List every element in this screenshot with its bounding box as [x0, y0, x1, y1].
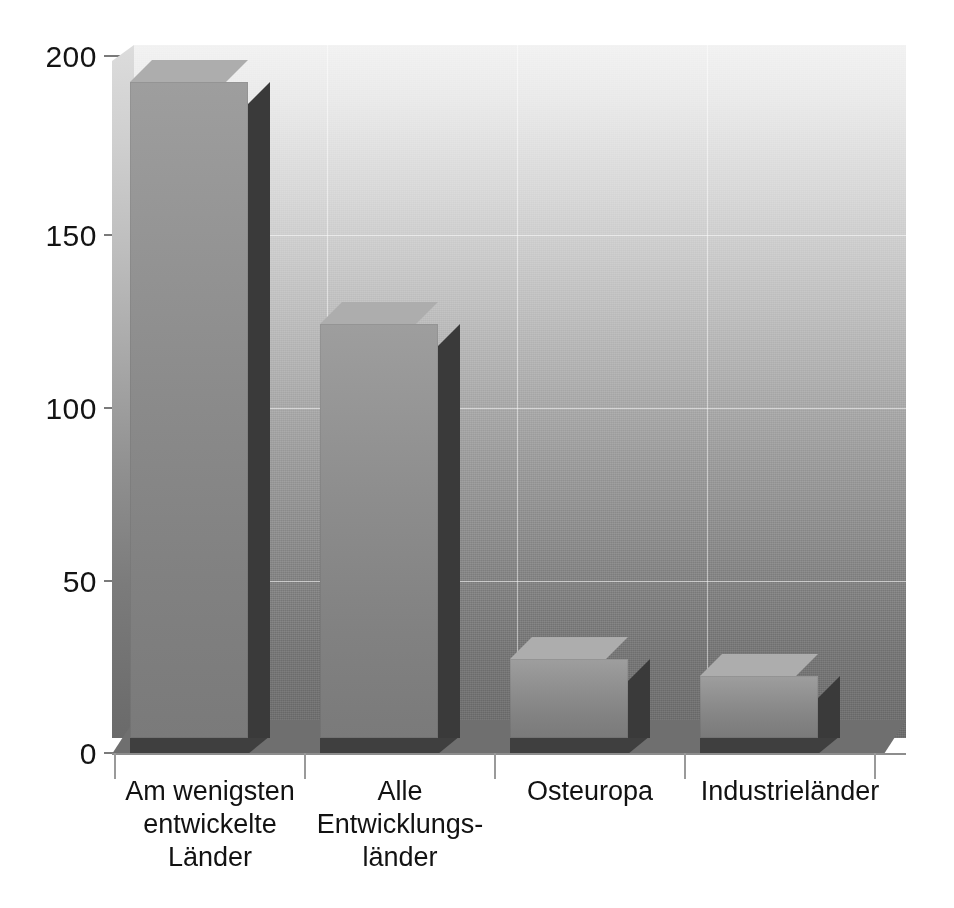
bar-side-1	[248, 82, 270, 738]
bar-top-4	[700, 654, 818, 676]
x-label-osteuropa: Osteuropa	[490, 775, 690, 808]
bar-industrielaender[interactable]	[700, 676, 818, 738]
bar-shadow-4	[700, 736, 840, 754]
y-tick-label-100: 100	[45, 394, 97, 424]
bar-front-4	[700, 676, 818, 738]
bar-front-1	[130, 82, 248, 738]
bars-layer	[112, 45, 906, 754]
y-tick-label-150: 150	[45, 221, 97, 251]
bar-am-wenigsten-entwickelte-laender[interactable]	[130, 82, 248, 738]
y-tick-label-200: 200	[45, 42, 97, 72]
bar-shadow-3	[510, 736, 650, 754]
bar-side-4	[818, 676, 840, 738]
y-axis: 200 150 100 50 0	[0, 0, 120, 908]
bar-front-2	[320, 324, 438, 738]
x-label-industrielaender: Industrieländer	[670, 775, 910, 808]
y-tick-label-50: 50	[63, 567, 97, 597]
bar-osteuropa[interactable]	[510, 659, 628, 738]
x-label-am-wenigsten-entwickelte-laender: Am wenigsten entwickelte Länder	[110, 775, 310, 874]
x-axis-line	[112, 753, 906, 755]
bar-top-2	[320, 302, 438, 324]
x-label-alle-entwicklungslaender: Alle Entwicklungs- länder	[300, 775, 500, 874]
x-axis-labels: Am wenigsten entwickelte Länder Alle Ent…	[0, 775, 954, 905]
bar-side-2	[438, 324, 460, 738]
bar-top-3	[510, 637, 628, 659]
bar-alle-entwicklungslaender[interactable]	[320, 324, 438, 738]
y-tick-label-0: 0	[80, 739, 97, 769]
bar-top-1	[130, 60, 248, 82]
bar-side-3	[628, 659, 650, 738]
bar-chart: 200 150 100 50 0	[0, 0, 954, 908]
bar-shadow-1	[130, 736, 270, 754]
bar-front-3	[510, 659, 628, 738]
plot-area	[112, 45, 906, 754]
bar-shadow-2	[320, 736, 460, 754]
